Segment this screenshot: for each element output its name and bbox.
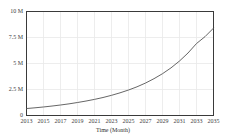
gridlines xyxy=(27,12,214,116)
x-axis-title: Time (Month) xyxy=(0,127,226,134)
x-axis-tick-label: 2035 xyxy=(204,118,224,125)
line-series-growth xyxy=(27,28,214,108)
chart-plot-area xyxy=(0,0,226,137)
y-axis-tick-label: 10 M xyxy=(0,8,23,15)
chart-container: 02.5 M5 M7.5 M10 M 201320152017201920212… xyxy=(0,0,226,137)
data-series-layer xyxy=(27,28,214,108)
y-axis-tick-label: 2.5 M xyxy=(0,86,23,93)
y-axis-tick-label: 5 M xyxy=(0,60,23,67)
y-axis-tick-label: 7.5 M xyxy=(0,34,23,41)
